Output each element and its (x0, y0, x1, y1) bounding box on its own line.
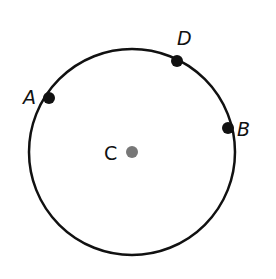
label-b: B (237, 118, 250, 140)
point-a (43, 92, 55, 104)
label-c: C (104, 142, 117, 164)
label-a: A (21, 86, 36, 108)
point-d (171, 55, 183, 67)
circle-diagram: C A D B (0, 0, 276, 279)
label-d: D (177, 27, 192, 49)
point-b (222, 122, 234, 134)
center-point-c (126, 146, 138, 158)
